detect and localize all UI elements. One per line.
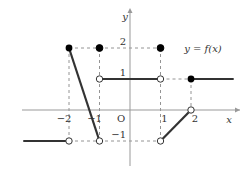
y-tick-label: 1 [120, 67, 126, 78]
x-tick-label: −2 [57, 113, 72, 124]
axis-labels: −2−11221−1Oxy [57, 11, 233, 140]
x-tick-label: −1 [87, 113, 102, 124]
y-tick-label: −1 [111, 129, 126, 140]
x-tick-label: 2 [192, 113, 198, 124]
closed-point-icon [188, 76, 195, 83]
closed-point-icon [66, 45, 73, 52]
axes [22, 8, 240, 166]
graph-pieces [23, 48, 233, 141]
open-point-icon [66, 138, 72, 144]
x-axis-label: x [226, 114, 232, 125]
open-point-icon [157, 76, 163, 82]
y-tick-label: 2 [120, 36, 126, 47]
function-graph: −2−11221−1Oxy y = f(x) [0, 0, 245, 173]
x-tick-label: 1 [161, 113, 167, 124]
open-point-icon [96, 76, 102, 82]
open-point-icon [96, 138, 102, 144]
isolated-point-icon [96, 45, 103, 52]
y-axis-arrow-icon [128, 8, 133, 13]
origin-label: O [117, 113, 125, 124]
x-axis-arrow-icon [235, 108, 240, 113]
function-label: y = f(x) [183, 43, 222, 54]
y-axis-label: y [121, 11, 128, 22]
graph-segment [69, 48, 100, 141]
open-point-icon [157, 138, 163, 144]
isolated-point-icon [157, 45, 164, 52]
